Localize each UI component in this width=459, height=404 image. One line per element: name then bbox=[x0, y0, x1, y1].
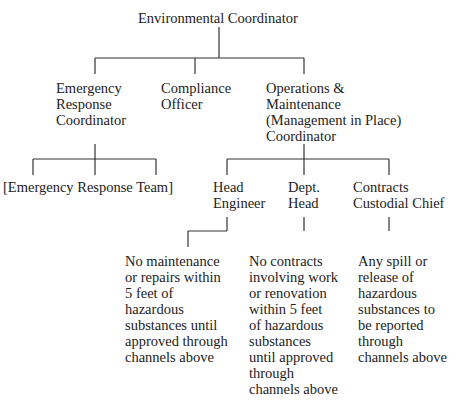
node-emergency-response-team: [Emergency Response Team] bbox=[3, 179, 173, 195]
node-emergency-response-coordinator: Emergency Response Coordinator bbox=[56, 80, 126, 128]
node-dept-head: Dept. Head bbox=[288, 179, 320, 211]
note-contracts-custodial-chief: Any spill or release of hazardous substa… bbox=[358, 253, 447, 365]
note-head-engineer: No maintenance or repairs within 5 feet … bbox=[125, 253, 228, 365]
node-environmental-coordinator: Environmental Coordinator bbox=[138, 10, 298, 26]
node-operations-maintenance-coordinator: Operations & Maintenance (Management in … bbox=[266, 80, 401, 144]
node-compliance-officer: Compliance Officer bbox=[161, 80, 231, 112]
node-head-engineer: Head Engineer bbox=[213, 179, 265, 211]
note-dept-head: No contracts involving work or renovatio… bbox=[249, 253, 338, 397]
node-contracts-custodial-chief: Contracts Custodial Chief bbox=[353, 179, 444, 211]
